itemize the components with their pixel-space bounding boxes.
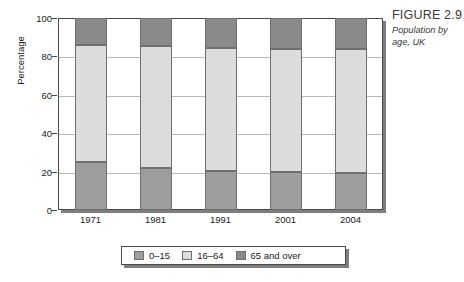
bar-segment <box>140 46 172 168</box>
legend-swatch-icon <box>134 251 144 260</box>
legend-label: 65 and over <box>251 250 301 261</box>
bar-2004 <box>335 18 367 210</box>
y-tick-mark <box>52 56 57 57</box>
x-tick-label: 2004 <box>340 214 361 225</box>
y-tick-label: 40 <box>41 128 52 139</box>
bar-segment <box>335 173 367 210</box>
y-tick-label: 0 <box>47 205 52 216</box>
bar-segment <box>140 168 172 210</box>
legend-item[interactable]: 65 and over <box>236 250 301 261</box>
bar-segment <box>270 49 302 172</box>
bar-1981 <box>140 18 172 210</box>
y-tick-mark <box>52 18 57 19</box>
legend-item[interactable]: 16–64 <box>182 250 223 261</box>
y-tick-label: 80 <box>41 51 52 62</box>
y-tick-mark <box>52 210 57 211</box>
bar-segment <box>205 18 237 48</box>
bar-segment <box>75 45 107 162</box>
legend-swatch-icon <box>236 251 246 260</box>
x-tick-label: 1981 <box>145 214 166 225</box>
bars-layer <box>58 18 383 210</box>
legend-swatch-icon <box>182 251 192 260</box>
x-tick-label: 2001 <box>275 214 296 225</box>
legend-label: 16–64 <box>197 250 223 261</box>
bar-segment <box>75 162 107 210</box>
figure-title: FIGURE 2.9 <box>392 8 462 23</box>
y-tick-mark <box>52 95 57 96</box>
y-tick-label: 100 <box>36 13 52 24</box>
legend-item[interactable]: 0–15 <box>134 250 170 261</box>
figure-caption: FIGURE 2.9 Population by age, UK <box>392 8 462 48</box>
bar-1991 <box>205 18 237 210</box>
bar-segment <box>75 18 107 45</box>
y-axis-ticks: 020406080100 <box>0 18 58 210</box>
bar-segment <box>205 48 237 171</box>
bar-segment <box>140 18 172 46</box>
bar-segment <box>270 18 302 49</box>
y-tick-mark <box>52 172 57 173</box>
legend: 0–1516–6465 and over <box>121 246 346 265</box>
x-tick-label: 1991 <box>210 214 231 225</box>
bar-segment <box>270 172 302 210</box>
bar-segment <box>335 18 367 49</box>
x-tick-label: 1971 <box>80 214 101 225</box>
legend-label: 0–15 <box>149 250 170 261</box>
bar-1971 <box>75 18 107 210</box>
figure-container: FIGURE 2.9 Population by age, UK Percent… <box>0 0 464 282</box>
bar-segment <box>335 49 367 173</box>
bar-2001 <box>270 18 302 210</box>
y-tick-mark <box>52 133 57 134</box>
figure-subtitle: Population by age, UK <box>392 25 462 48</box>
y-tick-label: 20 <box>41 166 52 177</box>
y-tick-label: 60 <box>41 89 52 100</box>
bar-segment <box>205 171 237 210</box>
